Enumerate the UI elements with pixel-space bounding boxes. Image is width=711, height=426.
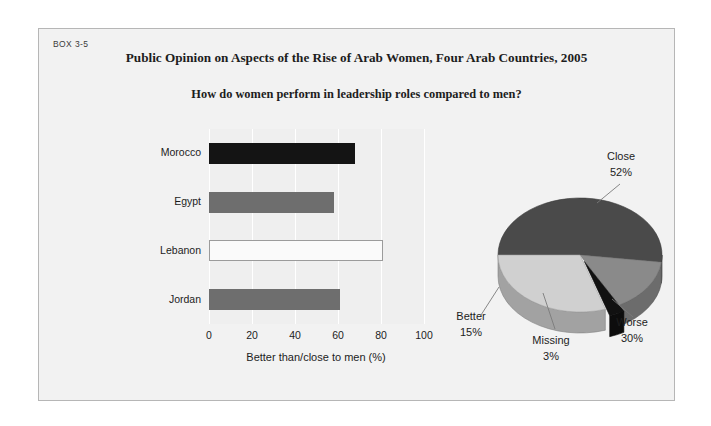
pie-label-value: 15%: [439, 325, 503, 341]
bar-jordan: [209, 289, 340, 310]
pie-slice-close: [498, 198, 662, 262]
bar-category-label: Egypt: [174, 195, 201, 207]
x-axis-tick-label: 0: [206, 329, 212, 341]
box-subtitle: How do women perform in leadership roles…: [39, 87, 674, 102]
x-axis-tick-label: 20: [246, 329, 258, 341]
pie-chart: Close52%Worse30%Missing3%Better15%: [437, 137, 711, 392]
x-axis-tick-label: 100: [415, 329, 433, 341]
x-axis-tick-label: 40: [289, 329, 301, 341]
pie-label-name: Close: [607, 150, 635, 162]
bar-category-label: Morocco: [161, 146, 201, 158]
x-axis-tick-label: 80: [375, 329, 387, 341]
x-axis-tick-label: 60: [332, 329, 344, 341]
pie-label-name: Better: [456, 310, 485, 322]
bar-chart: MoroccoEgyptLebanonJordan 020406080100 B…: [101, 129, 401, 379]
pie-label-better: Better15%: [439, 309, 503, 341]
pie-label-name: Missing: [532, 334, 569, 346]
pie-label-worse: Worse30%: [600, 315, 664, 347]
pie-label-close: Close52%: [589, 149, 653, 181]
bar-category-label: Jordan: [169, 293, 201, 305]
bar-x-axis: 020406080100: [209, 325, 424, 343]
box-title: Public Opinion on Aspects of the Rise of…: [39, 50, 674, 66]
box-number-label: BOX 3-5: [53, 39, 88, 49]
bar-plot-area: MoroccoEgyptLebanonJordan: [209, 129, 424, 324]
pie-label-missing: Missing3%: [515, 333, 587, 365]
box-panel: BOX 3-5 Public Opinion on Aspects of the…: [38, 28, 675, 401]
pie-label-value: 3%: [515, 349, 587, 365]
bar-category-label: Lebanon: [160, 244, 201, 256]
pie-label-value: 30%: [600, 331, 664, 347]
pie-label-name: Worse: [616, 316, 648, 328]
pie-label-value: 52%: [589, 165, 653, 181]
bar-row: Jordan: [209, 129, 424, 324]
pie-leader-line: [597, 184, 620, 203]
gridline: [424, 129, 425, 324]
